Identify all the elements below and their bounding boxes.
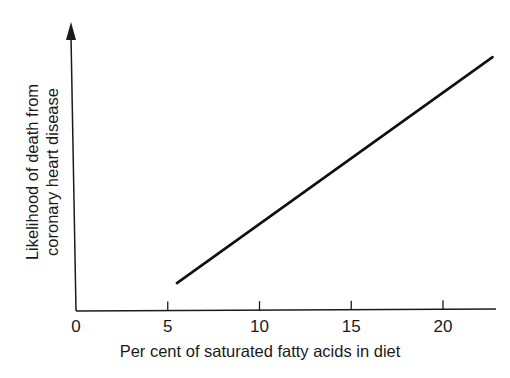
x-tick-label: 15 [342,317,361,336]
x-tick-label: 10 [250,317,269,336]
axes [66,22,496,311]
x-tick-label: 20 [434,317,453,336]
x-ticks: 05101520 [71,300,452,336]
x-tick-label: 5 [163,317,172,336]
x-axis [76,309,496,311]
chart: 05101520 Per cent of saturated fatty aci… [0,0,510,378]
y-axis-label: Likelihood of death from coronary heart … [23,84,61,260]
y-axis [71,36,76,311]
series [177,57,493,283]
x-axis-label: Per cent of saturated fatty acids in die… [120,342,401,360]
y-axis-label-line-2: coronary heart disease [43,88,61,256]
y-axis-arrow-icon [66,22,76,40]
series-line [177,57,493,283]
y-axis-label-line-1: Likelihood of death from [23,84,41,260]
x-tick-label: 0 [71,317,80,336]
